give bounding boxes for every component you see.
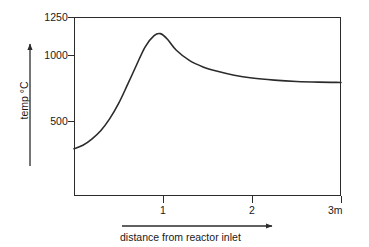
chart-vector-overlay [0,0,369,247]
temperature-curve [74,33,341,148]
temperature-profile-chart: 1250 1000 500 1 2 3m temp °C distance fr… [0,0,369,247]
